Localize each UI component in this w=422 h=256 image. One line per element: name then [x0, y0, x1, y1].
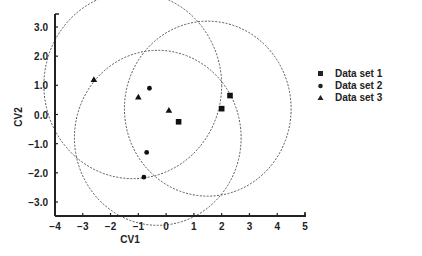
legend-item-1: Data set 1	[335, 68, 383, 79]
triangle-marker	[135, 94, 142, 100]
circle-marker	[141, 175, 146, 180]
y-tick-label: −1.0	[28, 139, 48, 150]
confidence-circle-2	[124, 21, 291, 196]
legend-square-icon	[318, 71, 323, 76]
y-axis-label: CV2	[13, 107, 24, 127]
scatter-chart: −4−3−2−10123453.02.01.00.0−1.0−2.0−3.0 C…	[0, 0, 422, 256]
circle-marker	[144, 150, 149, 155]
x-tick-label: 2	[219, 221, 225, 232]
legend-triangle-icon	[318, 95, 324, 100]
x-tick-label: −3	[77, 221, 89, 232]
circle-marker	[147, 86, 152, 91]
y-tick-label: −2.0	[28, 168, 48, 179]
y-tick-label: −3.0	[28, 197, 48, 208]
y-tick-label: 2.0	[34, 51, 48, 62]
x-tick-label: −4	[49, 221, 61, 232]
x-tick-label: −2	[105, 221, 117, 232]
x-tick-label: 3	[247, 221, 253, 232]
x-tick-label: 1	[191, 221, 197, 232]
x-tick-label: 4	[274, 221, 280, 232]
legend-item-3: Data set 3	[335, 92, 383, 103]
y-tick-label: 1.0	[34, 80, 48, 91]
confidence-circle-3	[74, 50, 241, 225]
x-tick-label: −1	[133, 221, 145, 232]
x-axis-label: CV1	[120, 234, 140, 245]
square-marker	[219, 106, 225, 112]
data-points	[91, 76, 233, 179]
square-marker	[227, 93, 233, 99]
x-tick-label: 5	[302, 221, 308, 232]
x-tick-label: 0	[163, 221, 169, 232]
square-marker	[176, 119, 182, 125]
triangle-marker	[91, 76, 98, 82]
y-tick-label: 3.0	[34, 22, 48, 33]
legend: Data set 1 Data set 2 Data set 3	[318, 68, 383, 103]
confidence-circle-1	[44, 0, 222, 179]
y-tick-label: 0.0	[34, 110, 48, 121]
triangle-marker	[166, 107, 173, 113]
legend-item-2: Data set 2	[335, 80, 383, 91]
legend-circle-icon	[318, 84, 323, 89]
